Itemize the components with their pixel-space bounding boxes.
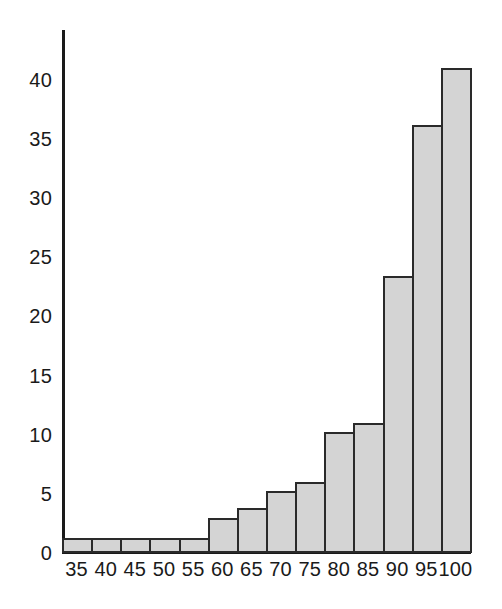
bar <box>179 538 210 553</box>
bar <box>149 538 180 553</box>
bar <box>412 125 443 553</box>
bar <box>383 276 414 553</box>
bar <box>266 491 297 553</box>
x-tick-label: 50 <box>153 558 176 581</box>
x-tick-label: 100 <box>438 558 472 581</box>
histogram-figure: 0510152025303540 35404550556065707580859… <box>0 0 502 609</box>
x-tick-label: 70 <box>269 558 292 581</box>
x-tick-label: 75 <box>298 558 321 581</box>
y-tick-label: 30 <box>8 187 52 210</box>
y-tick-label: 10 <box>8 423 52 446</box>
x-tick-label: 45 <box>124 558 147 581</box>
bar <box>208 518 239 553</box>
bar <box>237 508 268 553</box>
y-tick-label: 40 <box>8 68 52 91</box>
x-tick-label: 60 <box>211 558 234 581</box>
bar <box>120 538 151 553</box>
x-tick-label: 65 <box>240 558 263 581</box>
bar <box>91 538 122 553</box>
bar <box>62 538 93 553</box>
x-tick-label: 90 <box>386 558 409 581</box>
bar <box>441 68 472 553</box>
bar <box>295 482 326 553</box>
bar <box>324 432 355 553</box>
y-tick-label: 35 <box>8 127 52 150</box>
bar <box>353 423 384 553</box>
y-tick-label: 5 <box>8 482 52 505</box>
y-tick-label: 15 <box>8 364 52 387</box>
x-tick-label: 85 <box>357 558 380 581</box>
y-tick-label: 20 <box>8 305 52 328</box>
x-tick-label: 95 <box>415 558 438 581</box>
x-axis-tick-labels: 35404550556065707580859095100 <box>0 558 502 598</box>
y-tick-label: 25 <box>8 246 52 269</box>
x-tick-label: 35 <box>65 558 88 581</box>
plot-area <box>62 30 470 553</box>
x-tick-label: 80 <box>328 558 351 581</box>
x-tick-label: 55 <box>182 558 205 581</box>
x-tick-label: 40 <box>94 558 117 581</box>
y-axis-tick-labels: 0510152025303540 <box>0 0 52 609</box>
